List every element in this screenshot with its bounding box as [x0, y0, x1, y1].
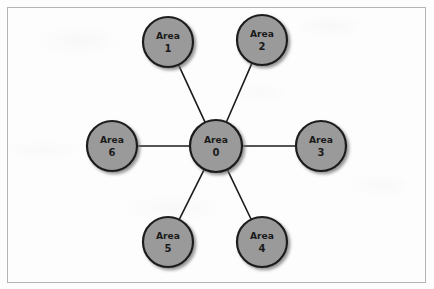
area-0-label-number: 0: [213, 147, 220, 158]
figure-canvas: Area0Area1Area2Area3Area4Area5Area6: [0, 0, 434, 289]
area-3-label-name: Area: [309, 134, 333, 145]
area-2-label-name: Area: [250, 28, 274, 39]
area-4-label-name: Area: [250, 230, 274, 241]
link-area-0-to-area-4: [226, 168, 252, 222]
area-6-label-number: 6: [109, 147, 116, 158]
node-area-6[interactable]: Area6: [87, 121, 137, 171]
node-area-5[interactable]: Area5: [143, 217, 193, 267]
node-area-2[interactable]: Area2: [237, 15, 287, 65]
nodes-layer: Area0Area1Area2Area3Area4Area5Area6: [87, 15, 346, 267]
area-topology-diagram: Area0Area1Area2Area3Area4Area5Area6: [0, 0, 434, 289]
area-6-label-name: Area: [100, 134, 124, 145]
area-4-label-number: 4: [259, 243, 266, 254]
area-0-label-name: Area: [204, 134, 228, 145]
node-area-3[interactable]: Area3: [296, 121, 346, 171]
area-1-label-name: Area: [156, 30, 180, 41]
node-area-4[interactable]: Area4: [237, 217, 287, 267]
link-area-0-to-area-5: [178, 167, 205, 221]
node-area-1[interactable]: Area1: [143, 17, 193, 67]
area-1-label-number: 1: [165, 43, 172, 54]
area-2-label-number: 2: [259, 41, 266, 52]
area-5-label-number: 5: [165, 243, 172, 254]
link-area-0-to-area-2: [226, 61, 253, 124]
node-area-0[interactable]: Area0: [190, 120, 242, 172]
area-3-label-number: 3: [318, 147, 325, 158]
link-area-0-to-area-1: [178, 63, 206, 124]
area-5-label-name: Area: [156, 230, 180, 241]
